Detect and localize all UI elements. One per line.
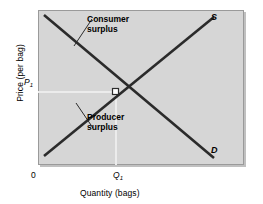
producer-surplus-line-2: surplus [87,122,124,132]
price-tick-label: P1 [24,77,33,87]
demand-curve-label: D [211,145,218,155]
origin-label: 0 [31,170,36,180]
consumer-surplus-line-1: Consumer [87,14,129,24]
equilibrium-marker [113,89,119,95]
quantity-tick-base: Q [113,170,120,180]
supply-demand-figure: Price (per bag) Quantity (bags) P1 0 Q1 … [0,0,263,204]
consumer-surplus-annotation: Consumer surplus [87,14,129,34]
quantity-tick-subscript: 1 [120,175,123,181]
supply-curve-label: S [211,12,217,22]
y-axis-title: Price (per bag) [15,25,25,121]
price-tick-base: P [24,77,30,87]
producer-surplus-annotation: Producer surplus [87,112,124,132]
price-tick-subscript: 1 [30,82,33,88]
producer-surplus-line-1: Producer [87,112,124,122]
plot-canvas [38,10,244,165]
quantity-tick-label: Q1 [113,170,123,180]
x-axis-title: Quantity (bags) [80,188,140,198]
consumer-surplus-line-2: surplus [87,24,129,34]
